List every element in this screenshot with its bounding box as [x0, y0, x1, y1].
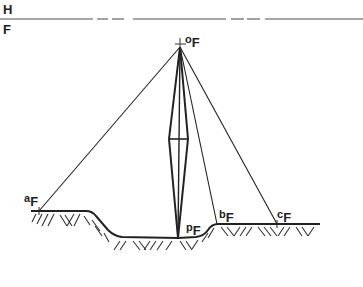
label-c-subscript: F [283, 210, 291, 225]
label-c-f: cF [277, 205, 291, 221]
horizon-label-h: H [3, 3, 12, 16]
label-b-letter: b [219, 208, 226, 220]
ray-to-b [180, 47, 217, 224]
label-p-f: pF [186, 218, 201, 234]
ground-hatching [32, 214, 314, 250]
sight-rays [39, 47, 277, 224]
label-a-subscript: F [30, 194, 38, 209]
label-o-subscript: F [192, 35, 200, 50]
label-b-subscript: F [226, 210, 234, 225]
label-p-subscript: F [193, 223, 201, 238]
label-b-f: bF [219, 205, 234, 221]
label-a-f: aF [24, 189, 38, 205]
rod-diamond [169, 47, 188, 238]
label-o-letter: o [185, 33, 192, 45]
horizon-label-f: F [3, 23, 11, 36]
diagram-canvas [0, 0, 363, 287]
ray-to-a [39, 47, 180, 211]
label-o-f: oF [185, 30, 200, 46]
ray-to-c [180, 47, 277, 224]
label-p-letter: p [186, 221, 193, 233]
